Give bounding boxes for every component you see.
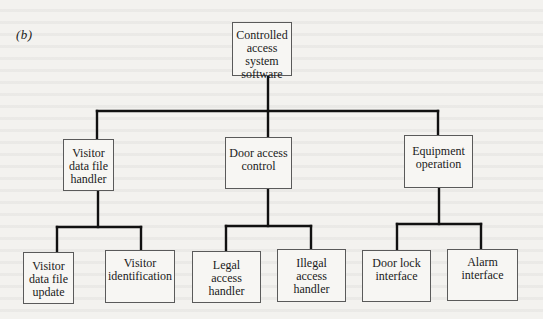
node-door-lock-interface: Door lock interface xyxy=(362,250,431,302)
node-alarm-interface: Alarm interface xyxy=(447,249,518,301)
node-legal-access-handler: Legal access handler xyxy=(192,251,261,303)
node-label: Alarm interface xyxy=(462,256,504,282)
hierarchy-diagram: (b) Controlled xyxy=(0,0,543,319)
node-label: Visitor identification xyxy=(108,257,172,283)
node-label: Visitor data file handler xyxy=(69,147,108,186)
node-label: Legal access handler xyxy=(209,259,245,298)
node-illegal-access-handler: Illegal access handler xyxy=(277,249,346,302)
root-node: Controlled access system software xyxy=(232,22,292,76)
node-visitor-data-file-update: Visitor data file update xyxy=(23,252,74,304)
root-node-label: Controlled access system software xyxy=(233,29,291,81)
node-visitor-identification: Visitor identification xyxy=(105,250,175,303)
node-equipment-operation: Equipment operation xyxy=(404,135,473,188)
node-label: Door lock interface xyxy=(372,257,420,283)
node-visitor-data-file-handler: Visitor data file handler xyxy=(63,139,114,191)
node-label: Equipment operation xyxy=(412,145,465,171)
node-door-access-control: Door access control xyxy=(225,137,292,189)
node-label: Door access control xyxy=(229,147,287,173)
node-label: Illegal access handler xyxy=(294,257,330,296)
node-label: Visitor data file update xyxy=(29,260,68,299)
